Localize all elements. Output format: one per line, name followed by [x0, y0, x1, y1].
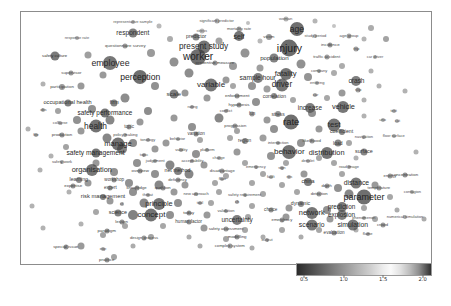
word-label: modelling [228, 235, 247, 239]
word-label: emergency [246, 165, 266, 169]
plot-area[interactable]: representative samplesignificant predict… [20, 11, 432, 265]
word-label: design process [130, 236, 158, 240]
word-label: variation [187, 131, 204, 136]
word-label: evaluation [324, 230, 345, 235]
word-label: incidence [321, 42, 340, 46]
word-label: topic [140, 153, 148, 157]
word-label: uno [379, 118, 386, 122]
word-label: tool [197, 201, 203, 205]
word-label: coefficient [330, 130, 353, 135]
word-label: scale [167, 91, 181, 97]
word-label: validity [175, 148, 187, 152]
word-label: questionnaire survey [105, 44, 146, 48]
word-label: today [183, 211, 194, 215]
word-label: threat [143, 193, 153, 197]
word-label: temperature [368, 185, 391, 189]
word-label: floor surface [383, 134, 405, 138]
word-label: deficiency [168, 178, 187, 182]
word-label-layer: representative samplesignificant predict… [21, 12, 431, 264]
word-label: safety requirement [228, 193, 261, 197]
word-label: fault [267, 175, 275, 179]
word-label: population [260, 55, 289, 61]
word-label: injury [277, 43, 302, 54]
word-label: hypothesis [229, 103, 250, 107]
word-label: emergency [272, 218, 293, 222]
word-label: representative sample [113, 20, 152, 24]
word-label: validation [218, 209, 235, 213]
word-label: ch [235, 200, 239, 204]
word-label: judgement [146, 159, 165, 163]
word-label: paradigm [98, 229, 116, 233]
word-label: significant predictor [199, 19, 233, 23]
word-label: response rate [65, 36, 89, 40]
word-label: rate [283, 118, 299, 128]
word-label: simulation [337, 221, 368, 228]
word-label: variable [197, 81, 225, 89]
word-label: contagion [404, 190, 421, 194]
word-label: complex system [215, 244, 245, 248]
word-label: exp [100, 247, 106, 251]
word-label: enforcement [225, 94, 249, 98]
word-label: likelihood [303, 139, 321, 143]
word-label: manage [104, 140, 131, 148]
word-label: flaw [219, 177, 226, 181]
word-label: perception [120, 73, 160, 82]
word-label: tonology [140, 138, 155, 142]
word-label: platform [200, 148, 214, 152]
word-label: increase [298, 104, 322, 110]
word-label: denslet [302, 159, 315, 163]
word-label: phenomenon [352, 216, 375, 220]
word-label: learning [70, 177, 88, 182]
word-label: predictor [186, 34, 206, 39]
word-label: risk management [81, 194, 125, 200]
word-label: practice [99, 257, 114, 261]
colorbar-gradient[interactable] [296, 263, 432, 276]
word-label: age [290, 25, 304, 34]
word-label: numerical simulation [387, 215, 423, 219]
word-label: conflict [220, 109, 232, 113]
word-label: navigation [355, 135, 373, 139]
word-label: behavior [274, 148, 305, 156]
word-label: intersection [268, 141, 288, 145]
word-label: surface [355, 149, 373, 154]
word-label: cat [395, 119, 400, 123]
word-label: human factor [175, 220, 202, 225]
colorbar-tick-label: 1.5 [379, 276, 387, 282]
word-label: topic [124, 124, 134, 129]
word-label: obs [40, 108, 46, 112]
word-label: overview [132, 168, 149, 172]
word-label: load [333, 140, 342, 145]
word-label: correlation [263, 94, 286, 99]
colorbar-tick-label: 1.0 [339, 276, 347, 282]
word-label: lesson [115, 220, 128, 224]
word-label: region [238, 139, 251, 144]
word-label: driver [272, 81, 292, 89]
word-label: flame [363, 232, 373, 236]
word-label: collapse [53, 121, 68, 125]
word-label: new approach [184, 192, 209, 196]
word-label: entering [310, 81, 324, 85]
word-label: expert [104, 185, 117, 190]
word-label: distribution [309, 149, 345, 156]
word-label: sample hour [240, 75, 276, 82]
word-label: detection [311, 192, 328, 196]
word-label: prediction [328, 203, 356, 209]
word-label: respondent [116, 30, 149, 37]
word-label: workshop [104, 177, 124, 182]
word-label: employee [91, 58, 129, 67]
word-label: distance [344, 180, 369, 187]
word-label: choice [264, 208, 277, 213]
word-label: concentration [392, 173, 418, 177]
word-label: charge [212, 156, 224, 160]
word-label: victim [263, 35, 274, 39]
word-label: sign [278, 166, 285, 170]
word-label: expertise [64, 184, 82, 188]
word-label: car driver [367, 55, 384, 59]
word-label: vehicle [332, 103, 355, 110]
word-label: output [261, 238, 272, 242]
word-label: health [84, 121, 107, 129]
word-label: organisation [72, 166, 112, 173]
word-label: acceptability [181, 159, 203, 163]
word-label: dynamic [291, 202, 310, 207]
word-label: scenario [299, 221, 325, 228]
